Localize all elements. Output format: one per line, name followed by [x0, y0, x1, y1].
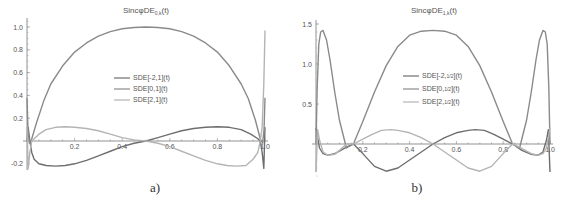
y-tick-label: 0.8	[13, 46, 23, 53]
series-line	[316, 128, 550, 172]
x-tick-label: 0.8	[213, 143, 223, 150]
legend-a: SDE[-2,1](t) SDE[0,1](t) SDE[2,1](t)	[114, 74, 170, 104]
x-tick-label: 0.2	[70, 143, 80, 150]
legend-label: SDE[0,1](t)	[133, 85, 168, 93]
legend-label: SDE[2,1](t)	[133, 96, 168, 104]
chart-title-a: SincφDE0,k(t)	[123, 6, 169, 16]
legend-label: SDE[2,1/2](t)	[422, 98, 460, 106]
y-tick-label: 1.0	[302, 61, 312, 68]
chart-panel-a: SincφDE0,k(t) 0.20.40.60.81.0-0.20.20.40…	[11, 6, 270, 195]
series-line	[27, 127, 265, 169]
legend-label: SDE[-2,1/2](t)	[422, 72, 462, 80]
figure: SincφDE0,k(t) 0.20.40.60.81.0-0.20.20.40…	[0, 0, 569, 207]
y-tick-label: -0.2	[11, 160, 23, 167]
panel-label-a: a)	[150, 180, 160, 195]
legend-label: SDE[0,1/2](t)	[422, 85, 460, 93]
y-tick-label: 0.4	[13, 92, 23, 99]
legend-b: SDE[-2,1/2](t) SDE[0,1/2](t) SDE[2,1/2](…	[403, 72, 462, 106]
x-tick-label: 0.4	[405, 146, 415, 153]
y-tick-label: 0.2	[13, 115, 23, 122]
y-tick-label: 1.0	[13, 24, 23, 31]
series-line	[316, 128, 550, 172]
y-tick-label: 1.5	[302, 21, 312, 28]
chart-title-b: SincφDE1,k(t)	[411, 6, 457, 16]
y-tick-label: 0.6	[13, 69, 23, 76]
y-tick-label: 0.5	[302, 101, 312, 108]
panel-label-b: b)	[412, 180, 423, 195]
x-tick-label: 0.6	[452, 146, 462, 153]
axes-a: 0.20.40.60.81.0-0.20.20.40.60.81.0	[11, 18, 270, 170]
chart-panel-b: SincφDE1,k(t) 0.20.40.60.81.00.51.01.5 S…	[302, 6, 555, 195]
legend-label: SDE[-2,1](t)	[133, 74, 170, 82]
